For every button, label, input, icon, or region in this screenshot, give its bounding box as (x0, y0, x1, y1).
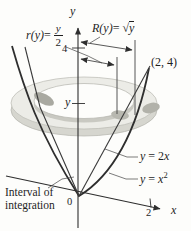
inner-radius-label: r(y) = y2 (26, 23, 63, 48)
slice-height-label: y (65, 96, 70, 109)
fraction-denominator: 2 (55, 36, 61, 48)
x-axis-label: x (171, 204, 176, 217)
interval-line1: Interval of (5, 186, 55, 199)
outer-radius-arrow (81, 42, 132, 50)
x-tick-2-label: 2 (146, 207, 151, 218)
fraction-numerator: y (54, 23, 63, 36)
outer-radius-fn: R(y) (92, 22, 113, 35)
outer-radius-eq: = (113, 22, 120, 35)
parabola-equation-label: y = x2 (140, 171, 168, 186)
inner-radius-leader (66, 47, 102, 63)
line-eq-sign: = (145, 149, 158, 163)
parabola-eq-sign: = (145, 172, 158, 186)
interval-line2: integration (5, 199, 55, 212)
washer-method-figure: y r(y) = y2 R(y) = √y 4 (2, 4) y y = 2x … (0, 0, 191, 231)
radicand: y (129, 21, 134, 35)
inner-radius-fn: r(y) (26, 29, 44, 42)
y-tick-4-label: 4 (62, 43, 67, 54)
point-2-4-label: (2, 4) (151, 56, 177, 69)
dimension-arrows (81, 42, 132, 65)
interval-of-integration-label: Interval of integration (5, 186, 55, 212)
inner-radius-arrow (81, 59, 114, 65)
washer-ring (11, 77, 161, 136)
outer-radius-label: R(y) = √y (92, 21, 134, 35)
y-axis-label: y (70, 5, 75, 18)
origin-label: 0 (67, 196, 72, 207)
inner-radius-eq: = (44, 29, 51, 42)
outer-radius-leader (90, 37, 100, 43)
line-eq-var: x (164, 149, 169, 163)
line-equation-label: y = 2x (140, 150, 169, 163)
parabola-eq-leader (109, 173, 138, 179)
parabola-eq-exponent: 2 (163, 170, 167, 180)
